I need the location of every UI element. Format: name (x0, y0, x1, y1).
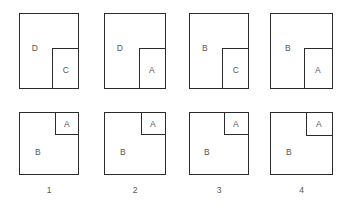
figure-1-bottom-outer-label: B (35, 148, 41, 157)
figure-4-top-inner-label: A (315, 66, 321, 75)
figure-1-top-outer-label: D (32, 44, 38, 53)
figure-1-bottom-inner-label: A (64, 120, 70, 129)
figure-number-2: 2 (104, 186, 166, 195)
figure-number-1: 1 (19, 186, 79, 195)
figure-3-top-outer-label: B (202, 44, 208, 53)
figure-4-bottom-outer-label: B (286, 148, 292, 157)
rectangle-partition-diagram: DCBA1DABA2BCBA3BABA4 (0, 0, 350, 206)
figure-number-3: 3 (189, 186, 249, 195)
figure-1-top-inner-label: C (63, 66, 69, 75)
figure-2-top-inner-label: A (149, 66, 155, 75)
figure-4-top-outer-label: B (285, 44, 291, 53)
figure-number-4: 4 (270, 186, 333, 195)
figure-3-bottom-outer-label: B (204, 148, 210, 157)
figure-2-bottom-outer-label: B (120, 148, 126, 157)
figure-3-bottom-inner-label: A (233, 120, 239, 129)
figure-2-top-outer-label: D (117, 44, 123, 53)
figure-3-top-inner-label: C (233, 66, 239, 75)
figure-2-bottom-inner-label: A (150, 120, 156, 129)
figure-4-bottom-inner-label: A (316, 120, 322, 129)
